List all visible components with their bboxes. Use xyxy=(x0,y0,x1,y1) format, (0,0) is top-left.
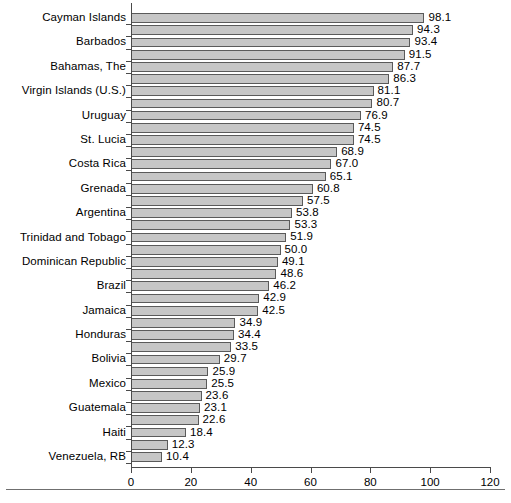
bar-row: 42.9 xyxy=(131,294,490,304)
bar-value-label: 93.4 xyxy=(414,37,437,49)
category-label: Cayman Islands xyxy=(42,12,126,24)
value-axis-tick xyxy=(251,468,252,473)
category-label: Virgin Islands (U.S.) xyxy=(22,85,126,97)
bar-value-label: 53.3 xyxy=(294,220,317,232)
bar-row: 94.3 xyxy=(131,25,490,35)
category-label: Venezuela, RB xyxy=(49,451,126,463)
bar-row: 65.1 xyxy=(131,172,490,182)
bar-value-label: 23.6 xyxy=(206,390,229,402)
bar xyxy=(131,25,413,35)
bar-row: 50.0 xyxy=(131,245,490,255)
bar-row: 46.2 xyxy=(131,281,490,291)
bar xyxy=(131,172,326,182)
bar-value-label: 12.3 xyxy=(172,439,195,451)
category-label: Honduras xyxy=(75,329,126,341)
bar-value-label: 48.6 xyxy=(280,268,303,280)
bar-value-label: 53.8 xyxy=(296,207,319,219)
bar-row: 57.5 xyxy=(131,196,490,206)
bar-row: 74.5 xyxy=(131,123,490,133)
bar-row: 67.0 xyxy=(131,159,490,169)
bar-value-label: 67.0 xyxy=(335,159,358,171)
bar-value-label: 94.3 xyxy=(417,25,440,37)
plot-area: 98.1Cayman Islands94.393.4Barbados91.587… xyxy=(0,0,511,503)
bar xyxy=(131,196,303,206)
bar xyxy=(131,440,168,450)
bar-row: 86.3 xyxy=(131,74,490,84)
bar xyxy=(131,403,200,413)
bar-value-label: 80.7 xyxy=(376,98,399,110)
bar-value-label: 33.5 xyxy=(235,341,258,353)
bar xyxy=(131,330,234,340)
bar-value-label: 50.0 xyxy=(285,244,308,256)
bar-row: 51.9 xyxy=(131,233,490,243)
category-label: Costa Rica xyxy=(69,159,126,171)
bar xyxy=(131,245,281,255)
bar-value-label: 18.4 xyxy=(190,427,213,439)
bar-value-label: 29.7 xyxy=(224,354,247,366)
bar-row: 10.4 xyxy=(131,452,490,462)
bar xyxy=(131,452,162,462)
bar xyxy=(131,13,424,23)
bar-row: 23.1 xyxy=(131,403,490,413)
bar-value-label: 49.1 xyxy=(282,256,305,268)
bar-row: 25.9 xyxy=(131,367,490,377)
bar-row: 25.5 xyxy=(131,379,490,389)
bar xyxy=(131,379,207,389)
bar xyxy=(131,233,286,243)
value-axis-tick xyxy=(191,468,192,473)
bar-row: 81.1 xyxy=(131,86,490,96)
bar-row: 76.9 xyxy=(131,111,490,121)
bar-row: 87.7 xyxy=(131,62,490,72)
value-axis-tick-label: 40 xyxy=(244,477,257,489)
category-label: Dominican Republic xyxy=(22,256,126,268)
category-axis-line xyxy=(131,3,132,468)
bar-value-label: 68.9 xyxy=(341,146,364,158)
bar-row: 34.9 xyxy=(131,318,490,328)
value-axis-line xyxy=(131,467,491,468)
bar xyxy=(131,269,276,279)
category-label: Haiti xyxy=(102,427,126,439)
bar-value-label: 25.9 xyxy=(212,366,235,378)
bar-row: 23.6 xyxy=(131,391,490,401)
bar-row: 60.8 xyxy=(131,184,490,194)
bottom-divider-rule xyxy=(6,489,505,490)
bar-row: 93.4 xyxy=(131,38,490,48)
bar-value-label: 98.1 xyxy=(428,12,451,24)
bar xyxy=(131,135,354,145)
bar-row: 53.8 xyxy=(131,208,490,218)
bar xyxy=(131,428,186,438)
bar-row: 98.1 xyxy=(131,13,490,23)
bar-row: 18.4 xyxy=(131,428,490,438)
bar xyxy=(131,38,410,48)
bar xyxy=(131,50,405,60)
bar xyxy=(131,208,292,218)
bar xyxy=(131,367,208,377)
bar-value-label: 10.4 xyxy=(166,451,189,463)
bar xyxy=(131,306,258,316)
category-label: Bolivia xyxy=(91,354,126,366)
bar-value-label: 34.9 xyxy=(239,317,262,329)
value-axis-tick-label: 120 xyxy=(480,477,499,489)
bar xyxy=(131,62,393,72)
category-label: Bahamas, The xyxy=(50,61,126,73)
bar-value-label: 81.1 xyxy=(378,85,401,97)
bar-row: 12.3 xyxy=(131,440,490,450)
bar-row: 91.5 xyxy=(131,50,490,60)
bar xyxy=(131,184,313,194)
value-axis-tick-label: 60 xyxy=(304,477,317,489)
bar-value-label: 22.6 xyxy=(203,415,226,427)
category-label: Guatemala xyxy=(69,402,126,414)
bar xyxy=(131,415,199,425)
bar xyxy=(131,99,372,109)
bar xyxy=(131,147,337,157)
bar-value-label: 23.1 xyxy=(204,402,227,414)
value-axis-tick xyxy=(131,468,132,473)
bar-row: 68.9 xyxy=(131,147,490,157)
bar xyxy=(131,294,259,304)
bar-value-label: 57.5 xyxy=(307,195,330,207)
bar xyxy=(131,111,361,121)
bar-value-label: 76.9 xyxy=(365,110,388,122)
bar xyxy=(131,220,290,230)
bar-row: 74.5 xyxy=(131,135,490,145)
bar-row: 49.1 xyxy=(131,257,490,267)
